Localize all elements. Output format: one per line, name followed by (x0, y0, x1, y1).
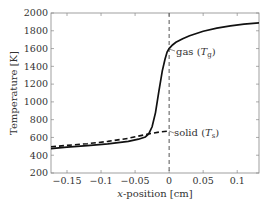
x-tick-label: 0.1 (230, 175, 245, 186)
temperature-chart: 200400600800100012001400160018002000 −0.… (0, 0, 267, 206)
x-axis-label: x-position [cm] (117, 188, 193, 199)
y-tick-label: 1600 (24, 43, 48, 54)
y-tick-label: 1000 (24, 96, 48, 107)
x-tick-label: −0.1 (90, 175, 113, 186)
y-tick-label: 200 (30, 167, 48, 178)
y-tick-label: 2000 (24, 7, 48, 18)
y-axis-label: Temperature [K] (8, 51, 19, 135)
x-tick-label: 0 (166, 175, 172, 186)
y-tick-label: 600 (30, 132, 48, 143)
y-tick-label: 800 (30, 114, 48, 125)
x-tick-label: −0.05 (121, 175, 150, 186)
x-tick-label: −0.15 (52, 175, 81, 186)
y-tick-label: 1400 (24, 61, 48, 72)
y-tick-label: 400 (30, 150, 48, 161)
y-tick-label: 1800 (24, 25, 48, 36)
plot-area (51, 13, 259, 173)
x-tick-label: 0.05 (193, 175, 214, 186)
y-tick-label: 1200 (24, 78, 48, 89)
